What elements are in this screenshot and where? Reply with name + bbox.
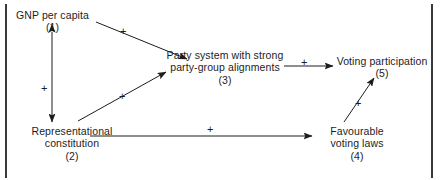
edge-sign-4-5: + (355, 98, 361, 109)
node-voting-participation: Voting participation (5) (334, 55, 430, 80)
edge-sign-2-3: + (119, 91, 125, 102)
node-number: (1) (16, 21, 89, 33)
node-label: GNP per capita (16, 9, 89, 21)
edge-sign-2-4: + (207, 124, 213, 135)
edge-sign-1-3: + (120, 26, 126, 37)
edge-sign-1-2: + (41, 83, 47, 94)
node-number: (2) (12, 150, 132, 162)
node-gnp-per-capita: GNP per capita (1) (16, 9, 89, 34)
node-label: Party system with strong (166, 49, 284, 61)
node-label: constitution (12, 137, 132, 149)
node-number: (4) (316, 150, 398, 162)
node-party-system-alignments: Party system with strong party-group ali… (166, 49, 284, 86)
node-label: Favourable (316, 125, 398, 137)
node-representational-constitution: Representational constitution (2) (12, 125, 132, 162)
node-favourable-voting-laws: Favourable voting laws (4) (316, 125, 398, 162)
node-label: voting laws (316, 137, 398, 149)
edge-sign-3-5: + (301, 57, 307, 68)
node-label: Representational (12, 125, 132, 137)
node-number: (3) (166, 74, 284, 86)
node-number: (5) (334, 67, 430, 79)
node-label: party-group alignments (166, 61, 284, 73)
node-label: Voting participation (334, 55, 430, 67)
causal-diagram: GNP per capita (1) Representational cons… (0, 0, 443, 180)
